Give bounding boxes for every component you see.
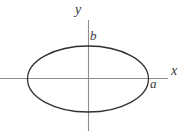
y-axis-label: y <box>75 3 81 17</box>
semi-major-axis-label: a <box>150 77 157 90</box>
ellipse-figure: y x b a <box>0 0 184 137</box>
ellipse-diagram-canvas <box>0 0 184 137</box>
x-axis-label: x <box>171 64 177 78</box>
semi-minor-axis-label: b <box>90 29 97 42</box>
